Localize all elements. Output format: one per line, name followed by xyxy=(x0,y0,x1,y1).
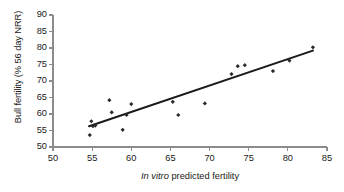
y-tick-label: 70 xyxy=(25,76,47,85)
y-tick-label: 60 xyxy=(25,109,47,118)
x-axis-title: In vitro predicted fertility xyxy=(53,171,327,181)
y-tick-label: 85 xyxy=(25,27,47,36)
data-point xyxy=(89,119,93,123)
data-point xyxy=(110,110,114,114)
data-point xyxy=(121,128,125,132)
data-points xyxy=(88,45,315,137)
y-tick-label: 75 xyxy=(25,60,47,69)
x-tick-label: 85 xyxy=(316,154,338,163)
data-point xyxy=(311,45,315,49)
data-point xyxy=(171,100,175,104)
x-axis-title-rest: predicted fertility xyxy=(169,171,239,181)
x-tick-label: 55 xyxy=(81,154,103,163)
data-point xyxy=(107,98,111,102)
x-tick-label: 80 xyxy=(277,154,299,163)
x-tick-label: 65 xyxy=(159,154,181,163)
axes xyxy=(53,15,327,147)
data-point xyxy=(88,133,92,137)
x-tick-label: 60 xyxy=(120,154,142,163)
data-point xyxy=(243,63,247,67)
data-point xyxy=(203,101,207,105)
tick-marks xyxy=(49,15,327,151)
data-point xyxy=(271,69,275,73)
trendline xyxy=(89,51,313,127)
data-point xyxy=(176,113,180,117)
data-point xyxy=(229,72,233,76)
y-axis-title: Bull fertility (% 56 day NRR) xyxy=(13,0,23,142)
y-tick-label: 90 xyxy=(25,10,47,19)
trendline-path xyxy=(89,51,313,127)
y-tick-label: 65 xyxy=(25,93,47,102)
x-tick-label: 75 xyxy=(238,154,260,163)
data-point xyxy=(236,64,240,68)
x-tick-label: 50 xyxy=(42,154,64,163)
scatter-chart: Bull fertility (% 56 day NRR) In vitro p… xyxy=(0,0,344,192)
x-axis-title-italic: In vitro xyxy=(141,171,169,181)
y-tick-label: 55 xyxy=(25,126,47,135)
data-point xyxy=(129,102,133,106)
y-tick-label: 80 xyxy=(25,43,47,52)
x-tick-label: 70 xyxy=(199,154,221,163)
y-tick-label: 50 xyxy=(25,142,47,151)
